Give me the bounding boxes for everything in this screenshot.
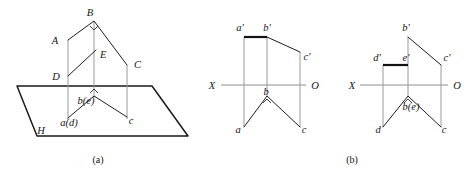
label-be-right: b(e) <box>403 101 420 113</box>
label-point-C: C <box>134 59 142 70</box>
label-d-right: d <box>375 124 381 135</box>
front-segment-bc-right <box>408 37 441 65</box>
projection-front-group: X O a' b' c' b a c <box>208 22 319 135</box>
label-point-c: c <box>129 115 134 126</box>
label-point-be: b(e) <box>78 95 95 107</box>
axis-label-O-left: O <box>311 80 319 91</box>
label-point-E: E <box>99 49 107 60</box>
label-e-prime-right: e' <box>403 52 411 63</box>
axis-label-X-right: X <box>348 80 356 91</box>
top-view-line-abc-left <box>244 96 300 127</box>
label-c-left: c <box>302 124 307 135</box>
label-a-prime-left: a' <box>236 22 244 33</box>
label-a-left: a <box>235 124 240 135</box>
caption-b: (b) <box>346 154 358 166</box>
label-b-prime-right: b' <box>402 22 410 33</box>
label-plane-H: H <box>36 125 46 136</box>
figure-root: B A E D C b(e) a(d) c H (a) X O <box>0 0 473 174</box>
label-point-D: D <box>51 71 60 82</box>
technical-drawing-canvas: B A E D C b(e) a(d) c H (a) X O <box>0 0 473 174</box>
projection-second-group: X O b' d' e' c' b(e) d c (b) <box>346 22 461 166</box>
label-point-B: B <box>87 7 94 18</box>
label-b-left: b <box>263 86 268 97</box>
label-d-prime-right: d' <box>373 52 381 63</box>
label-c-right: c <box>442 124 447 135</box>
axis-label-O-right: O <box>453 80 461 91</box>
label-b-prime-left: b' <box>263 22 271 33</box>
space-line-de <box>68 50 96 76</box>
caption-a: (a) <box>92 154 103 166</box>
axis-label-X-left: X <box>208 80 216 91</box>
front-segment-bc-left <box>267 37 300 52</box>
label-c-prime-right: c' <box>444 52 452 63</box>
label-c-prime-left: c' <box>304 51 312 62</box>
pictorial-view-group: B A E D C b(e) a(d) c H (a) <box>17 7 188 166</box>
label-point-ad: a(d) <box>60 117 78 129</box>
label-point-A: A <box>51 35 59 46</box>
space-line-abc <box>68 21 127 65</box>
